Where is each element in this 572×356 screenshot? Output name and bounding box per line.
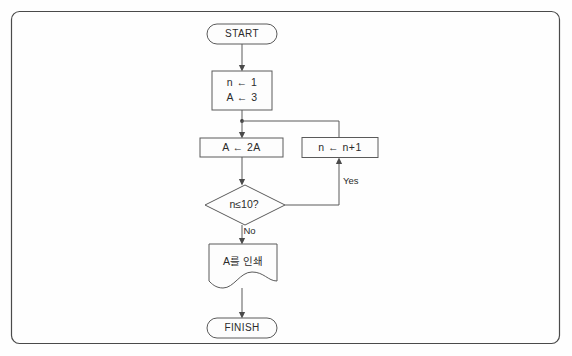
page-frame xyxy=(12,12,560,344)
node-increment[interactable]: n ← n+1 xyxy=(302,138,378,158)
init-label-line2: A ← 3 xyxy=(226,91,257,103)
increment-label: n ← n+1 xyxy=(318,141,362,153)
arrowhead-increment xyxy=(336,158,342,165)
edge-label-yes: Yes xyxy=(343,175,359,186)
finish-label: FINISH xyxy=(224,322,259,333)
node-decision[interactable]: n≤10? xyxy=(205,185,285,225)
print-label: A를 인쇄 xyxy=(223,255,263,267)
flowchart-diagram: START n ← 1 A ← 3 A ← 2A n ← n+1 n≤10? A… xyxy=(0,0,572,356)
decision-label: n≤10? xyxy=(229,198,258,210)
node-print[interactable]: A를 인쇄 xyxy=(209,244,277,288)
connector-yes-branch xyxy=(285,162,339,205)
node-start[interactable]: START xyxy=(207,24,277,44)
arrowhead-decision xyxy=(239,179,245,186)
node-double[interactable]: A ← 2A xyxy=(200,138,283,157)
double-label: A ← 2A xyxy=(222,141,261,153)
flowchart-canvas: START n ← 1 A ← 3 A ← 2A n ← n+1 n≤10? A… xyxy=(0,0,572,356)
edge-label-no: No xyxy=(244,225,256,236)
node-finish[interactable]: FINISH xyxy=(207,318,277,338)
start-label: START xyxy=(225,28,259,39)
init-label-line1: n ← 1 xyxy=(227,76,258,88)
node-init[interactable]: n ← 1 A ← 3 xyxy=(212,71,272,110)
